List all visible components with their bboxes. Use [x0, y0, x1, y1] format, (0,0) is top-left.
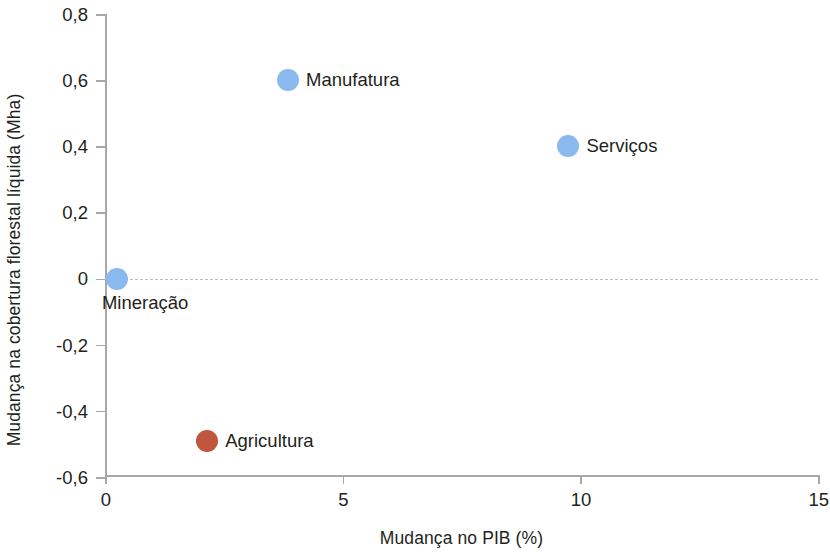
y-tick-label: -0,6 — [56, 467, 88, 489]
plot-area: 0,80,60,40,20-0,2-0,4-0,6 051015 Mineraç… — [105, 14, 818, 477]
y-tick: 0,8 — [96, 14, 105, 16]
y-tick: 0 — [96, 279, 105, 281]
data-point[interactable] — [196, 430, 218, 452]
scatter-chart-figure: Mudança na cobertura florestal líquida (… — [0, 0, 830, 560]
x-tick: 10 — [580, 475, 582, 484]
x-tick-label: 15 — [809, 489, 830, 511]
y-axis-line — [105, 14, 107, 477]
x-tick-label: 10 — [571, 489, 592, 511]
zero-reference-line — [105, 279, 818, 280]
y-tick-label: 0,6 — [62, 70, 88, 92]
y-tick-label: 0 — [78, 268, 88, 290]
x-tick: 15 — [818, 475, 820, 484]
x-tick: 0 — [105, 475, 107, 484]
y-tick: -0,4 — [96, 411, 105, 413]
y-tick: 0,2 — [96, 212, 105, 214]
data-point-label: Mineração — [102, 292, 188, 314]
x-axis-title: Mudança no PIB (%) — [105, 528, 818, 549]
y-tick-label: 0,4 — [62, 136, 88, 158]
data-point-label: Agricultura — [225, 430, 313, 452]
data-point-label: Serviços — [586, 135, 657, 157]
y-tick-label: -0,2 — [56, 335, 88, 357]
y-tick-label: 0,8 — [62, 4, 88, 26]
y-tick: 0,4 — [96, 146, 105, 148]
data-point[interactable] — [557, 135, 579, 157]
y-tick: -0,2 — [96, 345, 105, 347]
y-tick-label: -0,4 — [56, 401, 88, 423]
x-tick: 5 — [343, 475, 345, 484]
x-tick-label: 0 — [101, 489, 111, 511]
y-axis-title: Mudança na cobertura florestal líquida (… — [0, 30, 28, 510]
x-tick-label: 5 — [338, 489, 348, 511]
x-axis-line — [105, 475, 818, 477]
y-tick: -0,6 — [96, 477, 105, 479]
y-tick-label: 0,2 — [62, 202, 88, 224]
data-point[interactable] — [106, 268, 128, 290]
y-tick: 0,6 — [96, 80, 105, 82]
data-point-label: Manufatura — [306, 69, 400, 91]
data-point[interactable] — [277, 69, 299, 91]
